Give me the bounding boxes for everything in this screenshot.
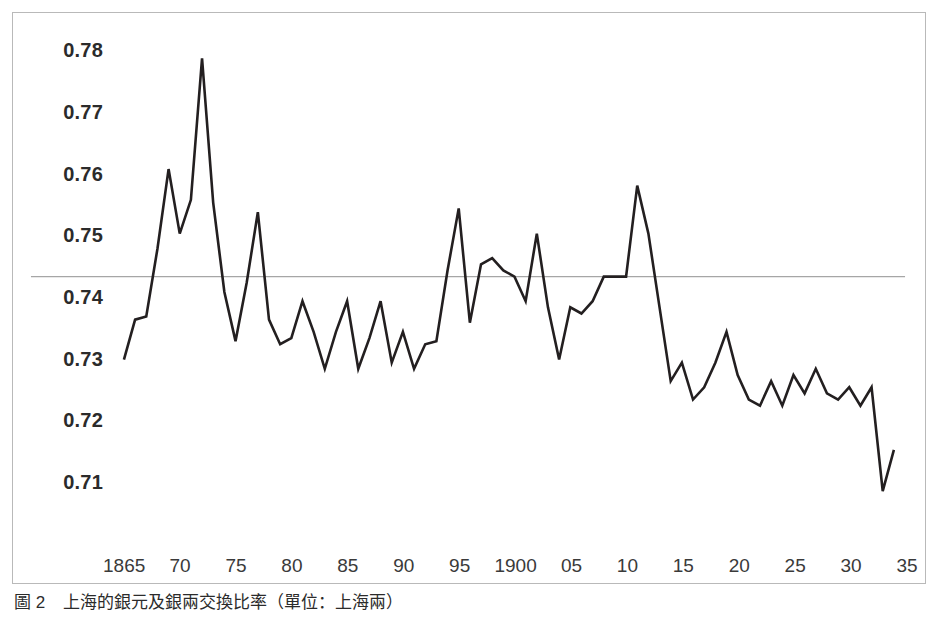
caption-number: 圖 2	[14, 593, 45, 612]
x-tick-30: 30	[841, 555, 862, 577]
y-tick-0-74: 0.74	[63, 286, 103, 309]
line-chart-canvas	[13, 13, 925, 583]
x-tick-25: 25	[785, 555, 806, 577]
x-tick-35: 35	[896, 555, 917, 577]
y-tick-0-77: 0.77	[63, 101, 103, 124]
x-tick-80: 80	[281, 555, 302, 577]
y-axis-tick-labels: 0.780.770.760.750.740.730.720.71	[27, 13, 103, 583]
x-tick-75: 75	[225, 555, 246, 577]
x-tick-95: 95	[449, 555, 470, 577]
chart-frame: 0.780.770.760.750.740.730.720.71 1865707…	[12, 12, 926, 584]
x-tick-20: 20	[729, 555, 750, 577]
x-tick-85: 85	[337, 555, 358, 577]
x-tick-15: 15	[673, 555, 694, 577]
y-tick-0-75: 0.75	[63, 224, 103, 247]
x-tick-90: 90	[393, 555, 414, 577]
plot-area	[13, 13, 925, 583]
x-tick-1900: 1900	[494, 555, 536, 577]
y-tick-0-76: 0.76	[63, 163, 103, 186]
x-tick-1865: 1865	[103, 555, 145, 577]
x-tick-05: 05	[561, 555, 582, 577]
data-series-line	[124, 58, 894, 491]
figure-container: 0.780.770.760.750.740.730.720.71 1865707…	[0, 0, 950, 622]
y-tick-0-73: 0.73	[63, 348, 103, 371]
x-tick-70: 70	[170, 555, 191, 577]
y-tick-0-71: 0.71	[63, 471, 103, 494]
x-tick-10: 10	[617, 555, 638, 577]
figure-caption: 圖 2上海的銀元及銀兩交換比率（單位：上海兩）	[14, 592, 934, 614]
y-tick-0-78: 0.78	[63, 39, 103, 62]
caption-text: 上海的銀元及銀兩交換比率（單位：上海兩）	[63, 593, 403, 612]
x-axis-tick-labels: 1865707580859095190005101520253035	[13, 547, 925, 577]
y-tick-0-72: 0.72	[63, 409, 103, 432]
